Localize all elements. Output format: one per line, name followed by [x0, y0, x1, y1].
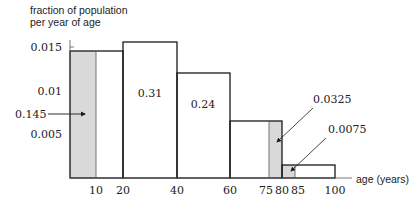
histogram-chart: fraction of population per year of age 0… — [0, 0, 414, 207]
annotation-0-145: 0.145 — [15, 108, 47, 121]
area-label-20-40: 0.31 — [138, 87, 163, 100]
x-tick-label-60: 60 — [223, 184, 237, 197]
x-tick-label-85: 85 — [291, 184, 305, 197]
annotation-0-0325: 0.0325 — [313, 93, 352, 106]
x-tick-label-100: 100 — [325, 184, 346, 197]
x-axis-label: age (years) — [356, 173, 409, 185]
x-tick-label-75: 75 — [259, 184, 273, 197]
y-axis-label-line2: per year of age — [30, 16, 101, 28]
x-tick-label-10: 10 — [89, 184, 103, 197]
y-tick-label-005: 0.005 — [31, 128, 63, 141]
x-tick-label-40: 40 — [170, 184, 184, 197]
y-tick-label-015: 0.015 — [31, 41, 63, 54]
y-axis-label-line1: fraction of population — [30, 4, 128, 16]
x-tick-label-80: 80 — [275, 184, 289, 197]
bar-20-40 — [123, 42, 177, 178]
area-label-40-60: 0.24 — [191, 98, 216, 111]
shaded-region-0-10 — [70, 51, 96, 178]
x-tick-label-20: 20 — [116, 184, 130, 197]
arrow-0-0075 — [291, 138, 326, 171]
shaded-region-75-80 — [269, 121, 282, 178]
annotation-0-0075: 0.0075 — [328, 123, 367, 136]
bar-40-60 — [177, 73, 230, 178]
y-tick-label-01: 0.01 — [38, 85, 63, 98]
shaded-region-80-85 — [282, 165, 295, 178]
